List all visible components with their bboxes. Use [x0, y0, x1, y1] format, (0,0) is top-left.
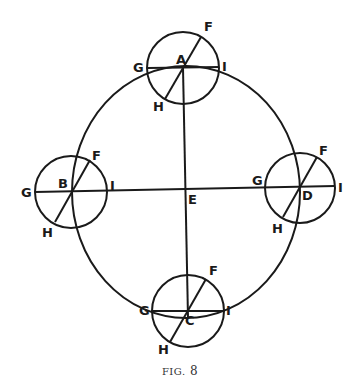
epicycle-a: A F G H I — [133, 19, 227, 114]
label-c-f: F — [209, 263, 218, 278]
label-a: A — [176, 52, 186, 67]
label-c-g: G — [139, 303, 150, 318]
label-a-g: G — [133, 60, 144, 75]
label-b: B — [58, 176, 68, 191]
fig-8-diagram: A F G H I B F G H I D F G H I C F G H I … — [0, 0, 360, 388]
label-b-f: F — [92, 148, 101, 163]
epicycle-c: C F G H I — [139, 263, 231, 357]
epicycle-d: D F G H I — [252, 143, 343, 236]
label-c: C — [185, 313, 195, 328]
label-d: D — [302, 188, 313, 203]
label-c-h: H — [158, 342, 169, 357]
figure-caption: FIG. 8 — [0, 364, 360, 378]
label-b-i: I — [110, 178, 115, 193]
label-d-i: I — [338, 180, 343, 195]
label-b-h: H — [42, 225, 53, 240]
label-b-g: G — [21, 185, 32, 200]
epicycle-b: B F G H I — [21, 148, 115, 240]
label-d-g: G — [252, 173, 263, 188]
label-e: E — [188, 192, 197, 207]
label-d-f: F — [319, 143, 328, 158]
caption-number: 8 — [190, 364, 198, 378]
label-d-h: H — [272, 221, 283, 236]
label-c-i: I — [226, 303, 231, 318]
label-a-f: F — [204, 19, 213, 34]
label-a-h: H — [153, 99, 164, 114]
label-a-i: I — [222, 59, 227, 74]
caption-prefix: FIG. — [162, 366, 186, 377]
